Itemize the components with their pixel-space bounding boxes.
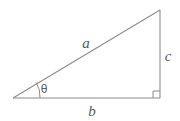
triangle-hypotenuse-line — [13, 10, 160, 98]
label-vertical-c: c — [165, 48, 172, 64]
label-angle-theta: θ — [41, 82, 48, 96]
right-triangle-diagram: a b c θ — [0, 0, 180, 121]
theta-angle-arc — [36, 82, 40, 98]
label-hypotenuse-a: a — [82, 35, 90, 51]
right-angle-square — [153, 91, 160, 98]
label-base-b: b — [88, 103, 96, 119]
triangle-figure-svg: a b c θ — [0, 0, 180, 121]
